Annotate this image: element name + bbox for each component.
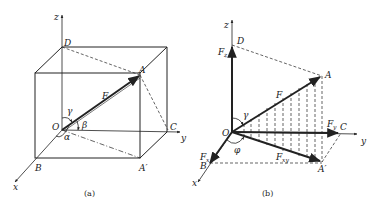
point-c-label-b: C [340, 122, 347, 132]
angle-alpha-label: α [64, 132, 70, 142]
figure-a: z y x D A O C B A′ F γ β α (a) [13, 12, 187, 198]
x-axis-label: x [13, 182, 18, 192]
angle-phi-arc [227, 137, 244, 143]
y-axis-label-b: y [360, 136, 367, 146]
fz-label: F z [217, 47, 228, 58]
point-o-label-b: O [222, 128, 230, 138]
point-a-label: A [138, 65, 146, 75]
y-axis [62, 130, 180, 132]
point-d-label-b: D [236, 36, 244, 46]
x-axis-label-b: x [192, 178, 197, 188]
angle-beta-label: β [81, 120, 87, 130]
angle-beta-arc [77, 121, 78, 130]
caption-a: (a) [84, 189, 95, 198]
dashed-lines-a [62, 47, 168, 158]
svg-text:xy: xy [282, 156, 289, 164]
point-a-prime-label: A′ [138, 163, 148, 173]
force-component-fy [232, 132, 338, 133]
point-a-prime-label-b: A′ [317, 164, 327, 174]
angle-phi-label: φ [234, 145, 241, 155]
point-b-label: B [34, 163, 42, 173]
force-vector-f-a [62, 76, 139, 130]
angle-gamma-label: γ [67, 106, 73, 116]
point-c-label: C [170, 122, 177, 132]
force-f-label-b: F [275, 90, 283, 100]
svg-text:x: x [206, 156, 210, 163]
force-f-label: F [101, 91, 109, 101]
angle-gamma-arc [62, 118, 72, 123]
figure-canvas: z y x D A O C B A′ F γ β α (a) [0, 0, 377, 207]
fxy-label: F xy [275, 152, 289, 164]
fx-label: F x [199, 152, 210, 163]
figure-b: z y x D A O C B A′ F γ φ F z F y F x F x… [192, 20, 367, 198]
caption-b: (b) [262, 189, 273, 198]
point-a-label-b: A [324, 70, 332, 80]
angle-gamma-label-b: γ [243, 110, 249, 120]
angle-gamma-arc-b [232, 118, 243, 125]
svg-text:y: y [332, 123, 337, 131]
point-o-label: O [52, 122, 60, 132]
point-d-label: D [63, 38, 71, 48]
axes-a [15, 15, 180, 182]
svg-text:z: z [223, 51, 228, 58]
z-axis-label-b: z [223, 20, 229, 30]
fy-label: F y [326, 119, 337, 131]
z-axis-label: z [53, 12, 59, 22]
x-axis [15, 130, 62, 182]
y-axis-label: y [180, 133, 187, 143]
